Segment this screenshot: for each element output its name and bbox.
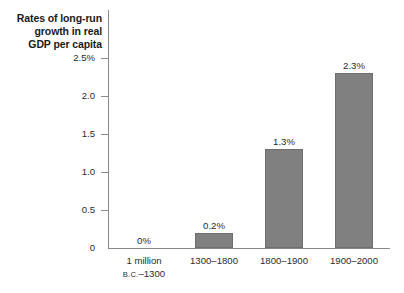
y-tick-label-1-5: 1.5: [15, 129, 95, 139]
y-tick-label-2-0: 2.0: [15, 91, 95, 101]
chart-title: Rates of long-run growth in real GDP per…: [14, 12, 102, 52]
x-axis-label-1-line-1: 1 million: [126, 255, 161, 266]
x-axis-label-2-line-1: 1300–1800: [190, 255, 238, 266]
bar-value-3: 1.3%: [273, 136, 295, 147]
x-axis-label-4: 1900–2000: [319, 254, 389, 267]
x-axis-label-3-line-1: 1800–1900: [260, 255, 308, 266]
y-tick-mark-2-5: [101, 58, 108, 59]
x-axis-label-2: 1300–1800: [179, 254, 249, 267]
y-tick-mark-1-5: [101, 134, 108, 135]
bar-value-2: 0.2%: [203, 220, 225, 231]
y-tick-label-0: 0: [15, 243, 95, 253]
bar-slot-1: 0%: [109, 10, 179, 248]
chart-title-line-1: Rates of long-run: [14, 12, 102, 25]
bar-value-1: 0%: [137, 235, 151, 246]
y-tick-label-2-5: 2.5%: [15, 53, 95, 63]
y-tick-mark-2-0: [101, 96, 108, 97]
plot-area: 0% 0.2% 1.3% 2.3%: [109, 10, 390, 248]
bar-3[interactable]: [265, 149, 303, 248]
x-axis-label-3: 1800–1900: [249, 254, 319, 267]
y-tick-label-1-0: 1.0: [15, 167, 95, 177]
y-tick-label-0-5: 0.5: [15, 205, 95, 215]
x-axis-label-4-line-1: 1900–2000: [330, 255, 378, 266]
x-axis-label-1: 1 million B.C.–1300: [109, 254, 179, 281]
y-tick-mark-1-0: [101, 172, 108, 173]
bar-2[interactable]: [195, 233, 233, 248]
bar-4[interactable]: [335, 73, 373, 248]
chart-title-line-2: growth in real: [14, 25, 102, 38]
y-tick-mark-0-5: [101, 210, 108, 211]
x-axis-line: [108, 248, 390, 249]
bar-slot-3: 1.3%: [249, 10, 319, 248]
chart-figure: Rates of long-run growth in real GDP per…: [0, 0, 404, 293]
bar-slot-4: 2.3%: [319, 10, 389, 248]
bar-value-4: 2.3%: [343, 60, 365, 71]
chart-title-line-3: GDP per capita: [14, 38, 102, 51]
bar-slot-2: 0.2%: [179, 10, 249, 248]
x-axis-label-1-line-2: B.C.–1300: [109, 267, 179, 281]
